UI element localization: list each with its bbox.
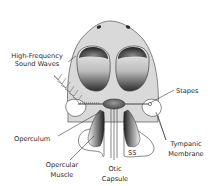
leader-tympanic-membrane xyxy=(156,112,166,140)
label-high-frequency: High-Frequency xyxy=(11,52,63,60)
label-ss: SS xyxy=(128,149,136,157)
label-capsule: Capsule xyxy=(102,175,128,183)
label-sound-waves: Sound Waves xyxy=(15,60,60,68)
otic-capsule xyxy=(103,99,125,109)
label-membrane: Membrane xyxy=(168,150,203,158)
label-opercular: Opercular xyxy=(46,161,79,169)
label-operculum: Operculum xyxy=(14,135,50,143)
frog-ear-diagram: High-Frequency Sound Waves Stapes Opercu… xyxy=(0,0,213,186)
label-tympanic: Tympanic xyxy=(169,140,202,148)
label-stapes: Stapes xyxy=(176,87,199,95)
label-muscle: Muscle xyxy=(51,171,74,179)
label-otic: Otic xyxy=(108,165,122,173)
